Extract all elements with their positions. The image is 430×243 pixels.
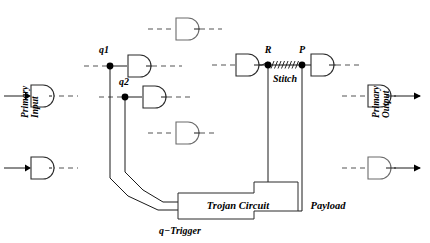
arrow-primary-output-bottom <box>414 165 421 172</box>
arrow-primary-output-top <box>414 93 421 100</box>
solid-wires <box>4 62 421 211</box>
circuit-diagram-canvas: q1 q2 R P Stitch Trojan Circuit Payload … <box>0 0 430 243</box>
label-primary-output-line2: Output <box>381 90 391 118</box>
node-q2-dot <box>122 94 129 101</box>
label-primary-input-line2: Input <box>30 96 40 119</box>
label-trojan-circuit: Trojan Circuit <box>207 200 270 211</box>
wire-q-trigger-q2 <box>125 97 178 202</box>
label-primary-input-line1: Primary <box>20 85 30 118</box>
label-q-trigger: q−Trigger <box>159 225 201 236</box>
node-q1-dot <box>107 63 114 70</box>
label-R: R <box>264 44 272 55</box>
logic-gates <box>31 18 396 179</box>
circuit-svg: q1 q2 R P Stitch Trojan Circuit Payload … <box>0 0 430 243</box>
arrow-primary-input-bottom <box>25 165 31 172</box>
label-primary-output-line1: Primary <box>371 85 381 118</box>
node-P-dot <box>299 62 306 69</box>
label-q2: q2 <box>119 76 129 87</box>
wire-payload-to-p <box>298 65 302 211</box>
dashed-net-stubs <box>50 29 368 168</box>
label-q1: q1 <box>99 44 109 55</box>
stitch-segment <box>270 61 300 69</box>
label-payload: Payload <box>311 200 347 211</box>
node-R-dot <box>265 62 272 69</box>
label-P: P <box>299 44 306 55</box>
label-stitch: Stitch <box>273 73 297 84</box>
